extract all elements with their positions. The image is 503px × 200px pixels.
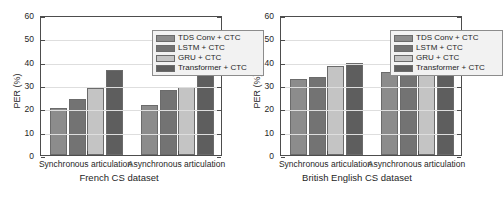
y-axis-tick bbox=[281, 87, 285, 88]
gridline bbox=[281, 110, 461, 111]
legend-swatch-icon bbox=[394, 45, 413, 52]
chart-panel-british-english: PER (%) 0102030405060 TDS Conv + CTCLSTM… bbox=[238, 0, 476, 200]
y-axis-tick bbox=[217, 17, 221, 18]
x-axis-group-label: Synchronous articulation bbox=[39, 159, 132, 169]
y-axis-tick bbox=[41, 64, 45, 65]
y-axis-tick-label: 30 bbox=[265, 82, 274, 91]
legend-label: LSTM + CTC bbox=[178, 44, 225, 52]
gridline bbox=[281, 87, 461, 88]
legend-swatch-icon bbox=[394, 55, 413, 62]
legend-swatch-icon bbox=[156, 65, 175, 72]
y-axis-tick-label: 60 bbox=[265, 12, 274, 21]
x-axis-title-left: French CS dataset bbox=[0, 172, 238, 183]
legend-swatch-icon bbox=[156, 35, 175, 42]
y-axis-tick-label: 20 bbox=[265, 105, 274, 114]
bar bbox=[69, 99, 86, 155]
bar bbox=[160, 90, 177, 155]
x-axis-tick bbox=[418, 151, 419, 155]
x-axis-tick bbox=[87, 151, 88, 155]
bar bbox=[50, 108, 67, 155]
legend-row[interactable]: Transformer + CTC bbox=[156, 63, 260, 73]
y-axis-tick-label: 40 bbox=[25, 58, 34, 67]
legend-swatch-icon bbox=[394, 35, 413, 42]
y-axis-tick-label: 30 bbox=[25, 82, 34, 91]
legend-label: GRU + CTC bbox=[416, 54, 459, 62]
bar bbox=[381, 72, 398, 155]
legend-left: TDS Conv + CTCLSTM + CTCGRU + CTCTransfo… bbox=[152, 30, 264, 76]
y-axis-tick bbox=[457, 157, 461, 158]
legend-label: TDS Conv + CTC bbox=[178, 34, 240, 42]
bar bbox=[106, 70, 123, 155]
x-axis-tick bbox=[178, 151, 179, 155]
y-axis-tick bbox=[281, 64, 285, 65]
bar bbox=[87, 88, 104, 155]
y-axis-tick-label: 40 bbox=[265, 58, 274, 67]
x-axis-tick bbox=[327, 151, 328, 155]
bar bbox=[346, 63, 363, 155]
y-axis-tick bbox=[41, 87, 45, 88]
y-axis-tick bbox=[41, 40, 45, 41]
y-axis-tick bbox=[457, 87, 461, 88]
legend-label: Transformer + CTC bbox=[178, 64, 247, 72]
plot-area-left: TDS Conv + CTCLSTM + CTCGRU + CTCTransfo… bbox=[40, 16, 222, 156]
y-axis-tick bbox=[457, 110, 461, 111]
x-axis-group-label: Synchronous articulation bbox=[279, 159, 372, 169]
y-axis-tick bbox=[281, 17, 285, 18]
legend-row[interactable]: Transformer + CTC bbox=[394, 63, 499, 73]
y-axis-tick bbox=[41, 157, 45, 158]
y-axis-tick-label: 0 bbox=[29, 152, 34, 161]
gridline bbox=[41, 134, 221, 135]
y-axis-tick bbox=[281, 157, 285, 158]
y-axis-tick-label: 50 bbox=[265, 35, 274, 44]
legend-row[interactable]: LSTM + CTC bbox=[156, 43, 260, 53]
y-axis-tick-label: 60 bbox=[25, 12, 34, 21]
bar bbox=[178, 87, 195, 155]
legend-label: Transformer + CTC bbox=[416, 64, 485, 72]
y-axis-tick bbox=[281, 40, 285, 41]
y-axis-tick bbox=[41, 110, 45, 111]
x-axis-title-right: British English CS dataset bbox=[238, 172, 476, 183]
gridline bbox=[41, 110, 221, 111]
bar bbox=[400, 69, 417, 155]
y-axis-tick bbox=[217, 87, 221, 88]
legend-right: TDS Conv + CTCLSTM + CTCGRU + CTCTransfo… bbox=[390, 30, 503, 76]
y-axis-tick-labels-left: 0102030405060 bbox=[0, 16, 37, 156]
y-axis-tick bbox=[41, 134, 45, 135]
legend-row[interactable]: TDS Conv + CTC bbox=[156, 33, 260, 43]
legend-swatch-icon bbox=[394, 65, 413, 72]
gridline bbox=[281, 134, 461, 135]
y-axis-tick-label: 10 bbox=[265, 128, 274, 137]
x-axis-group-label: Asynchronous articulation bbox=[128, 159, 225, 169]
y-axis-tick bbox=[217, 110, 221, 111]
y-axis-tick bbox=[281, 110, 285, 111]
y-axis-tick-label: 50 bbox=[25, 35, 34, 44]
bar bbox=[309, 77, 326, 155]
legend-row[interactable]: GRU + CTC bbox=[156, 53, 260, 63]
y-axis-tick bbox=[457, 17, 461, 18]
y-axis-tick-label: 10 bbox=[25, 128, 34, 137]
legend-label: TDS Conv + CTC bbox=[416, 34, 478, 42]
chart-panel-french: PER (%) 0102030405060 TDS Conv + CTCLSTM… bbox=[0, 0, 238, 200]
legend-label: GRU + CTC bbox=[178, 54, 221, 62]
legend-label: LSTM + CTC bbox=[416, 44, 463, 52]
y-axis-tick bbox=[217, 134, 221, 135]
gridline bbox=[41, 87, 221, 88]
legend-swatch-icon bbox=[156, 55, 175, 62]
y-axis-tick bbox=[217, 157, 221, 158]
bar bbox=[290, 79, 307, 155]
x-axis-group-label: Asynchronous articulation bbox=[368, 159, 465, 169]
y-axis-tick-label: 0 bbox=[269, 152, 274, 161]
bar bbox=[141, 105, 158, 155]
y-axis-tick bbox=[457, 134, 461, 135]
y-axis-tick-label: 20 bbox=[25, 105, 34, 114]
legend-row[interactable]: LSTM + CTC bbox=[394, 43, 499, 53]
y-axis-tick bbox=[281, 134, 285, 135]
y-axis-tick bbox=[41, 17, 45, 18]
plot-area-right: TDS Conv + CTCLSTM + CTCGRU + CTCTransfo… bbox=[280, 16, 462, 156]
legend-swatch-icon bbox=[156, 45, 175, 52]
legend-row[interactable]: GRU + CTC bbox=[394, 53, 499, 63]
legend-row[interactable]: TDS Conv + CTC bbox=[394, 33, 499, 43]
